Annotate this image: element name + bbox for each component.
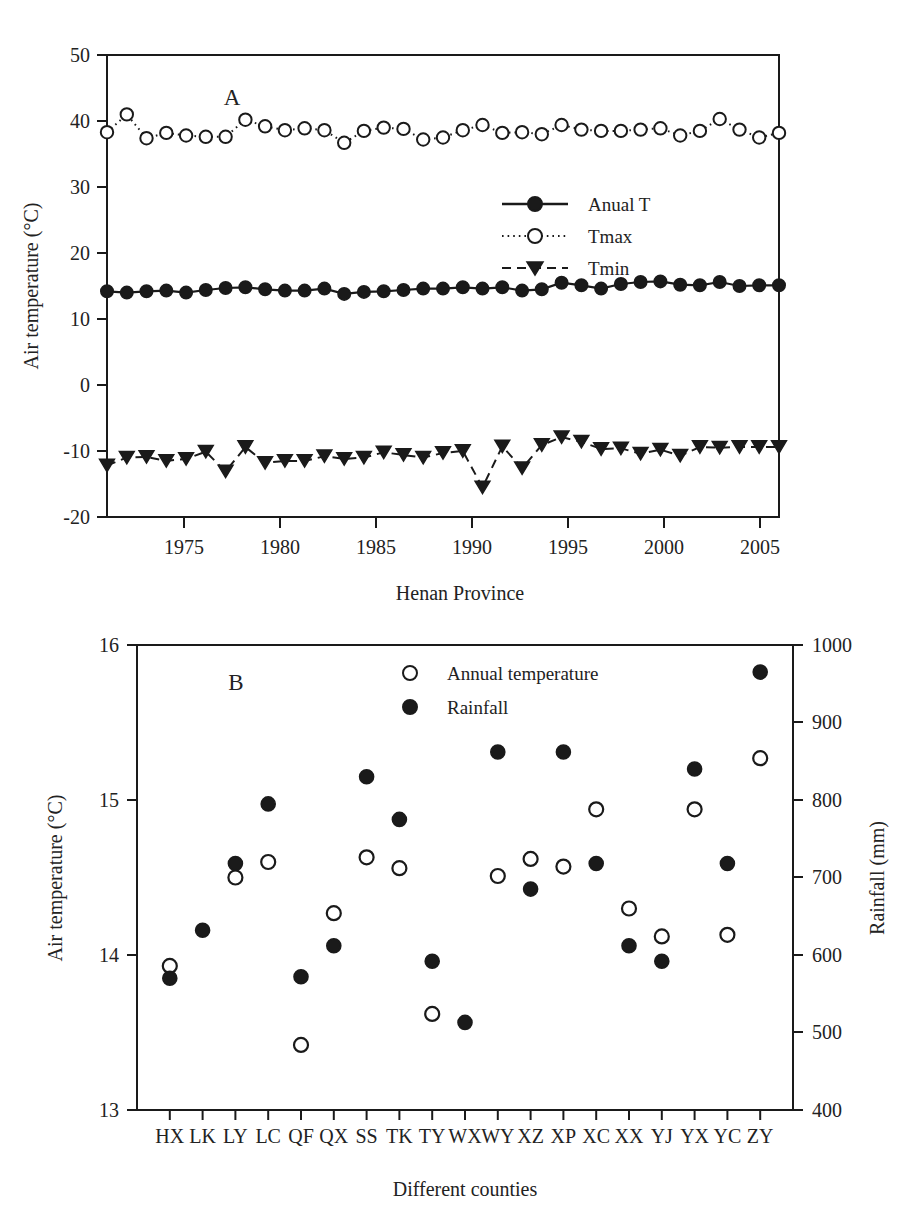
panel-a-marker-1-25 <box>595 125 607 137</box>
open-circle-icon <box>528 229 542 243</box>
panel-b-xtick-label-1: LK <box>189 1125 216 1147</box>
panel-a-marker-0-33 <box>753 279 765 291</box>
panel-b-point-0-18 <box>753 751 767 765</box>
panel-b-point-0-6 <box>360 850 374 864</box>
panel-a-marker-1-14 <box>378 121 390 133</box>
panel-b-point-1-8 <box>425 954 439 968</box>
panel-a-marker-0-23 <box>555 277 567 289</box>
panel-a-marker-2-10 <box>297 455 312 468</box>
panel-a-marker-0-0 <box>101 285 113 297</box>
panel-a-marker-0-7 <box>239 281 251 293</box>
open-circle-icon <box>403 666 417 680</box>
panel-a-ytick-2: 0 <box>80 374 90 396</box>
panel-b-label: B <box>228 670 243 695</box>
panel-b-xtick-label-16: YX <box>680 1125 709 1147</box>
panel-a-marker-2-8 <box>258 457 273 470</box>
panel-b-y-axis-right: 400 500 600 700 800 900 1000 <box>793 634 852 1121</box>
panel-b-ytick-right-0: 400 <box>812 1099 842 1121</box>
panel-b-xtick-label-10: WY <box>481 1125 514 1147</box>
panel-a-xlabel: Henan Province <box>396 582 524 604</box>
panel-a-marker-2-6 <box>218 465 233 478</box>
panel-a-marker-1-17 <box>437 131 449 143</box>
panel-a-marker-1-11 <box>318 124 330 136</box>
panel-a-label: A <box>224 85 241 110</box>
panel-b-x-axis <box>170 1110 760 1120</box>
panel-a-xtick-3: 1990 <box>452 536 492 558</box>
panel-a-marker-2-22 <box>534 439 549 452</box>
panel-a-marker-0-19 <box>476 282 488 294</box>
panel-a-marker-1-6 <box>219 131 231 143</box>
legend-entry-tmax: Tmax <box>502 226 633 247</box>
panel-b-ytick-left-1: 14 <box>99 944 119 966</box>
panel-b-point-1-9 <box>458 1015 472 1029</box>
panel-a-marker-0-24 <box>575 279 587 291</box>
panel-b-point-0-13 <box>589 802 603 816</box>
panel-a-marker-2-17 <box>436 447 451 460</box>
panel-a-xtick-2: 1985 <box>356 536 396 558</box>
panel-b-xtick-label-15: YJ <box>651 1125 673 1147</box>
panel-b-point-1-15 <box>655 954 669 968</box>
panel-b-point-1-7 <box>392 812 406 826</box>
panel-b-point-1-3 <box>261 797 275 811</box>
panel-b-xtick-label-18: ZY <box>747 1125 774 1147</box>
panel-a-marker-0-30 <box>694 279 706 291</box>
panel-b-xtick-label-2: LY <box>223 1125 248 1147</box>
panel-a-marker-2-21 <box>515 462 530 475</box>
panel-a-marker-1-27 <box>634 123 646 135</box>
legend-entry-anual-t: Anual T <box>502 194 651 215</box>
panel-a-marker-1-2 <box>140 132 152 144</box>
panel-b-point-0-17 <box>720 928 734 942</box>
panel-b-legend: Annual temperature Rainfall <box>403 663 598 718</box>
panel-a-marker-2-24 <box>574 436 589 449</box>
legend-entry-tmin: Tmin <box>502 258 630 279</box>
panel-a-marker-0-12 <box>338 288 350 300</box>
panel-b-ylabel-right: Rainfall (mm) <box>866 821 889 935</box>
panel-a-marker-2-27 <box>633 447 648 460</box>
panel-a-ytick-6: 40 <box>70 110 90 132</box>
panel-a-marker-1-10 <box>298 122 310 134</box>
panel-b-point-1-14 <box>622 939 636 953</box>
panel-b-point-0-14 <box>622 902 636 916</box>
panel-a-marker-2-28 <box>653 443 668 456</box>
panel-a-marker-0-21 <box>516 284 528 296</box>
panel-a-ytick-1: -10 <box>63 440 90 462</box>
panel-a-marker-0-2 <box>140 285 152 297</box>
panel-b-point-1-1 <box>196 923 210 937</box>
panel-b-ylabel-left: Air temperature (°C) <box>44 795 67 962</box>
panel-b-xtick-label-17: YC <box>714 1125 742 1147</box>
panel-b-ytick-left-3: 16 <box>99 634 119 656</box>
panel-a-marker-1-33 <box>753 131 765 143</box>
panel-b-ytick-right-6: 1000 <box>812 634 852 656</box>
panel-a-marker-1-13 <box>358 125 370 137</box>
panel-a-marker-1-20 <box>496 127 508 139</box>
panel-a-xtick-1: 1980 <box>260 536 300 558</box>
panel-b-ytick-right-2: 600 <box>812 944 842 966</box>
panel-b: 13 14 15 16 400 500 600 700 800 900 1000… <box>44 634 889 1200</box>
panel-b-point-1-17 <box>720 857 734 871</box>
panel-a-marker-0-27 <box>634 276 646 288</box>
panel-b-point-1-2 <box>228 857 242 871</box>
panel-b-point-0-8 <box>425 1007 439 1021</box>
figure-svg: -20 -10 0 10 20 30 40 50 1975 1980 1985 … <box>0 0 920 1229</box>
panel-a-marker-0-34 <box>773 279 785 291</box>
panel-a-marker-1-32 <box>733 123 745 135</box>
panel-b-xtick-label-6: SS <box>355 1125 377 1147</box>
panel-a-line-2 <box>107 437 779 487</box>
panel-b-point-0-16 <box>688 802 702 816</box>
filled-circle-icon <box>528 197 542 211</box>
panel-b-ytick-right-4: 800 <box>812 789 842 811</box>
panel-b-xtick-label-0: HX <box>155 1125 184 1147</box>
panel-a-y-axis: -20 -10 0 10 20 30 40 50 <box>63 44 107 528</box>
panel-b-point-0-2 <box>228 871 242 885</box>
panel-b-xtick-label-13: XC <box>582 1125 610 1147</box>
panel-b-point-0-5 <box>327 906 341 920</box>
panel-a-marker-1-19 <box>476 119 488 131</box>
panel-a-marker-0-25 <box>595 282 607 294</box>
panel-b-xtick-label-4: QF <box>288 1125 314 1147</box>
panel-b-x-tick-labels: HXLKLYLCQFQXSSTKTYWXWYXZXPXCXXYJYXYCZY <box>155 1125 773 1147</box>
panel-b-ytick-right-3: 700 <box>812 866 842 888</box>
panel-b-point-0-3 <box>261 855 275 869</box>
panel-a-ytick-0: -20 <box>63 506 90 528</box>
panel-a-marker-0-8 <box>259 283 271 295</box>
panel-a-marker-1-30 <box>694 125 706 137</box>
